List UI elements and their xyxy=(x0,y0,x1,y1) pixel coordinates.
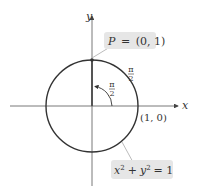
diagram-canvas: P = (0, 1) π 2 π 2 x y (1, 0) x2+y2= 1 xyxy=(0,0,197,188)
point-P-dot xyxy=(90,58,94,62)
P-label: P = (0, 1) xyxy=(107,35,165,48)
x-axis-label: x xyxy=(182,99,189,112)
angle-den: 2 xyxy=(109,89,114,98)
y-axis-label: y xyxy=(85,10,93,23)
unit-circle-diagram: P = (0, 1) π 2 π 2 x y (1, 0) x2+y2= 1 xyxy=(0,0,197,188)
arc-length-den: 2 xyxy=(128,74,133,83)
point-1-0-label: (1, 0) xyxy=(140,112,167,123)
arc-length-num: π xyxy=(128,65,133,74)
angle-num: π xyxy=(109,80,114,89)
